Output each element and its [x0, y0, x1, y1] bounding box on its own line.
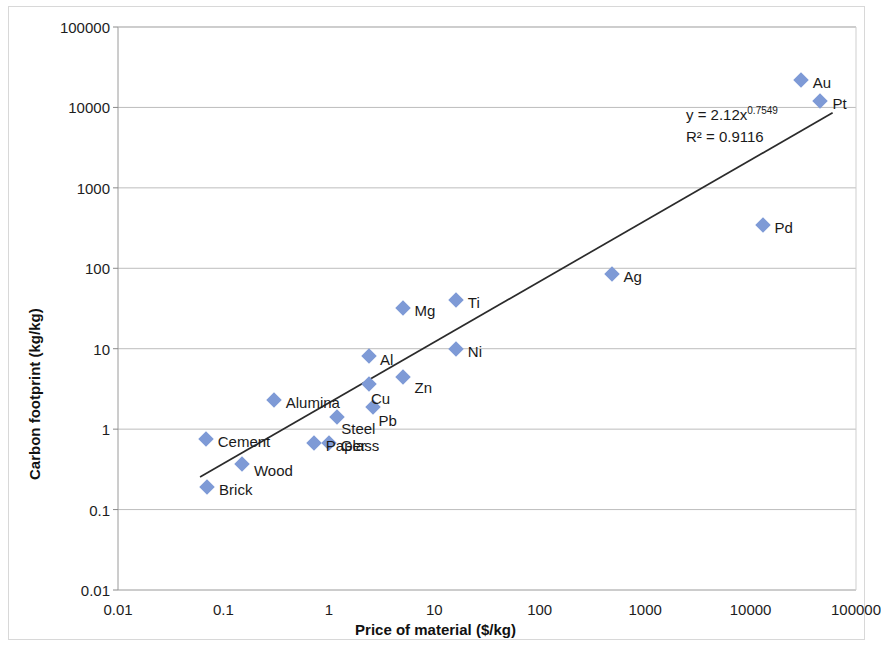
- y-axis-tick-label: 100000: [40, 20, 110, 35]
- trendline-equation: y = 2.12x0.7549 R² = 0.9116: [686, 104, 778, 148]
- trendline-exponent: 0.7549: [747, 105, 778, 116]
- data-point-label: Glass: [341, 436, 379, 453]
- data-point-label: Au: [813, 73, 831, 90]
- x-axis-tick-label: 1000: [628, 602, 661, 617]
- x-axis-tick-label: 1: [325, 602, 333, 617]
- x-axis-tick-label: 0.01: [103, 602, 132, 617]
- x-axis-tick-label: 100: [527, 602, 552, 617]
- x-axis-tick-label: 10000: [730, 602, 772, 617]
- data-point-label: Al: [380, 350, 393, 367]
- y-axis-tick-label: 1000: [40, 180, 110, 195]
- data-point-label: Pd: [775, 218, 793, 235]
- data-point-label: Pb: [379, 411, 397, 428]
- data-point-label: Steel: [341, 420, 375, 437]
- y-axis-tick-label: 10: [40, 341, 110, 356]
- data-point-label: Alumina: [286, 394, 340, 411]
- data-point-label: Wood: [254, 461, 293, 478]
- y-axis-tick-label: 0.1: [40, 502, 110, 517]
- trendline-r-squared: R² = 0.9116: [686, 126, 778, 148]
- x-axis-tick-label: 0.1: [213, 602, 234, 617]
- data-point-label: Ti: [468, 294, 480, 311]
- data-point-label: Zn: [415, 379, 433, 396]
- y-axis-tick-label: 0.01: [40, 583, 110, 598]
- y-axis-tick-label: 1: [40, 422, 110, 437]
- data-point-label: Cement: [218, 433, 271, 450]
- y-axis-tick-label: 100: [40, 261, 110, 276]
- x-axis-tick-label: 100000: [831, 602, 881, 617]
- x-axis-tick-label: 10: [426, 602, 443, 617]
- trendline-equation-body: y = 2.12x: [686, 106, 747, 123]
- data-point-label: Brick: [219, 481, 252, 498]
- data-point-label: Ni: [468, 342, 482, 359]
- data-point-label: Cu: [371, 390, 390, 407]
- data-point-label: Pt: [832, 95, 846, 112]
- y-axis-tick-label: 10000: [40, 100, 110, 115]
- data-point-label: Ag: [624, 267, 642, 284]
- x-axis-title: Price of material ($/kg): [0, 621, 871, 638]
- data-point-label: Mg: [415, 302, 436, 319]
- y-axis-title: Carbon footprint (kg/kg): [26, 80, 43, 480]
